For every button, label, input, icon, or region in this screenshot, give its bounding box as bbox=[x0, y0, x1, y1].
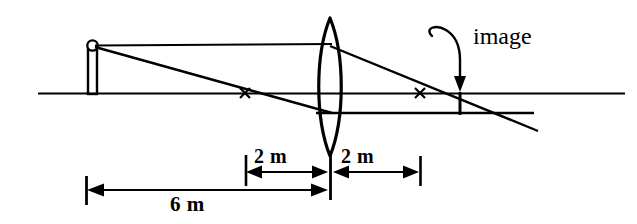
converging-lens bbox=[319, 18, 342, 156]
optics-ray-diagram: 2 m 2 m 6 m image bbox=[0, 0, 637, 224]
image-callout-arrowhead bbox=[454, 76, 466, 92]
dimension-label-2m-left: 2 m bbox=[254, 146, 287, 166]
dim-2m-right-arrow-end bbox=[403, 166, 419, 179]
dim-2m-left-arrow-end bbox=[312, 166, 328, 179]
dim-2m-left-arrow-start bbox=[246, 166, 262, 179]
chief-ray-through-center bbox=[95, 47, 332, 113]
parallel-incident-ray bbox=[95, 44, 332, 46]
refracted-ray-through-focus bbox=[330, 46, 538, 131]
ray-diagram-canvas bbox=[0, 0, 637, 224]
image-callout-arrow bbox=[429, 27, 466, 92]
dim-6m-arrow-end bbox=[311, 184, 328, 197]
object-post-body bbox=[88, 49, 97, 94]
dimension-label-2m-right: 2 m bbox=[341, 146, 374, 166]
dimension-label-6m: 6 m bbox=[170, 194, 205, 215]
image-label: image bbox=[473, 24, 532, 48]
dimension-6m bbox=[87, 176, 329, 205]
dim-6m-arrow-start bbox=[87, 184, 104, 197]
dim-2m-right-arrow-start bbox=[333, 166, 349, 179]
